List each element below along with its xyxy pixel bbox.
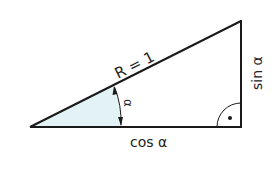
trig-triangle-diagram: R = 1 cos α sin α α <box>0 0 280 176</box>
adjacent-label: cos α <box>130 134 167 150</box>
angle-label: α <box>121 99 135 107</box>
right-angle-arc <box>217 103 241 127</box>
right-angle-dot-icon <box>228 116 232 120</box>
opposite-label: sin α <box>249 56 265 90</box>
hypotenuse-label: R = 1 <box>112 48 158 83</box>
